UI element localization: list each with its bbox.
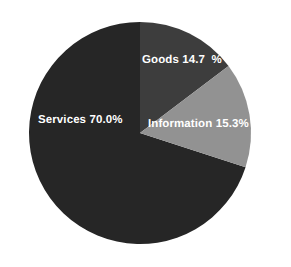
pie-slice-label-services: Services 70.0% bbox=[38, 115, 123, 127]
pie-chart-svg bbox=[0, 0, 291, 267]
pie-slice-label-information: Information 15.3% bbox=[148, 119, 249, 131]
pie-chart-figure: Services 70.0% Goods 14.7 % Information … bbox=[0, 0, 291, 267]
pie-slice-label-goods: Goods 14.7 % bbox=[142, 55, 222, 67]
